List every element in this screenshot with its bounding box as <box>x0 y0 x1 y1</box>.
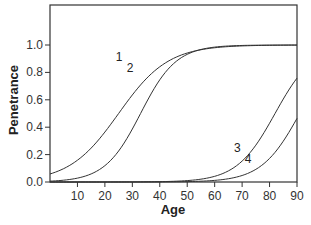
x-tick-label: 50 <box>181 189 195 203</box>
curve-label-4: 4 <box>245 152 252 166</box>
y-tick-label: 0.4 <box>26 120 43 134</box>
curve-4 <box>50 118 297 182</box>
curve-label-2: 2 <box>127 61 134 75</box>
y-axis-ticks: 0.00.20.40.60.81.0 <box>26 38 50 189</box>
curve-2 <box>50 45 297 181</box>
x-tick-label: 60 <box>208 189 222 203</box>
x-axis-title: Age <box>161 202 186 217</box>
y-tick-label: 1.0 <box>26 38 43 52</box>
y-tick-label: 0.2 <box>26 148 43 162</box>
x-tick-label: 90 <box>290 189 304 203</box>
plot-frame <box>50 5 297 182</box>
x-tick-label: 30 <box>126 189 140 203</box>
x-tick-label: 40 <box>153 189 167 203</box>
x-tick-label: 80 <box>263 189 277 203</box>
y-tick-label: 0.6 <box>26 93 43 107</box>
x-tick-label: 10 <box>71 189 85 203</box>
penetrance-chart: 0.00.20.40.60.81.0 102030405060708090 12… <box>0 0 311 225</box>
curve-label-1: 1 <box>116 50 123 64</box>
x-tick-label: 70 <box>235 189 249 203</box>
penetrance-curves <box>50 45 297 182</box>
curve-labels: 1234 <box>116 50 252 165</box>
y-tick-label: 0.0 <box>26 175 43 189</box>
x-axis-ticks: 102030405060708090 <box>71 182 304 203</box>
curve-1 <box>50 45 297 174</box>
y-tick-label: 0.8 <box>26 65 43 79</box>
y-axis-title: Penetrance <box>6 65 21 135</box>
curve-label-3: 3 <box>234 141 241 155</box>
x-tick-label: 20 <box>98 189 112 203</box>
